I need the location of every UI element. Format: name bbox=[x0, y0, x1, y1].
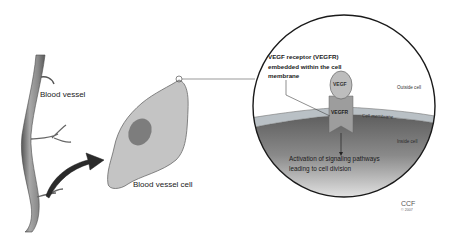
blood-vessel-cell bbox=[108, 80, 189, 189]
diagram-canvas bbox=[0, 0, 452, 243]
vegf-label: VEGF bbox=[333, 82, 347, 87]
vegf-diagram: Blood vessel Blood vessel cell VEGF rece… bbox=[0, 0, 452, 243]
activation-label: Activation of signaling pathways leading… bbox=[289, 154, 389, 173]
blood-vessel-cell-label: Blood vessel cell bbox=[133, 181, 193, 189]
receptor-callout-label: VEGF receptor (VEGFR) embedded within th… bbox=[268, 52, 348, 81]
blood-vessel-label: Blood vessel bbox=[40, 91, 85, 99]
blood-vessel bbox=[21, 55, 71, 232]
outside-cell-label: Outside cell bbox=[397, 86, 421, 91]
inside-cell-label: Inside cell bbox=[397, 140, 417, 145]
credit-copyright: © 2007 bbox=[401, 209, 413, 213]
vegfr-label: VEGFR bbox=[331, 110, 348, 115]
credit-org: CCF bbox=[401, 200, 415, 207]
